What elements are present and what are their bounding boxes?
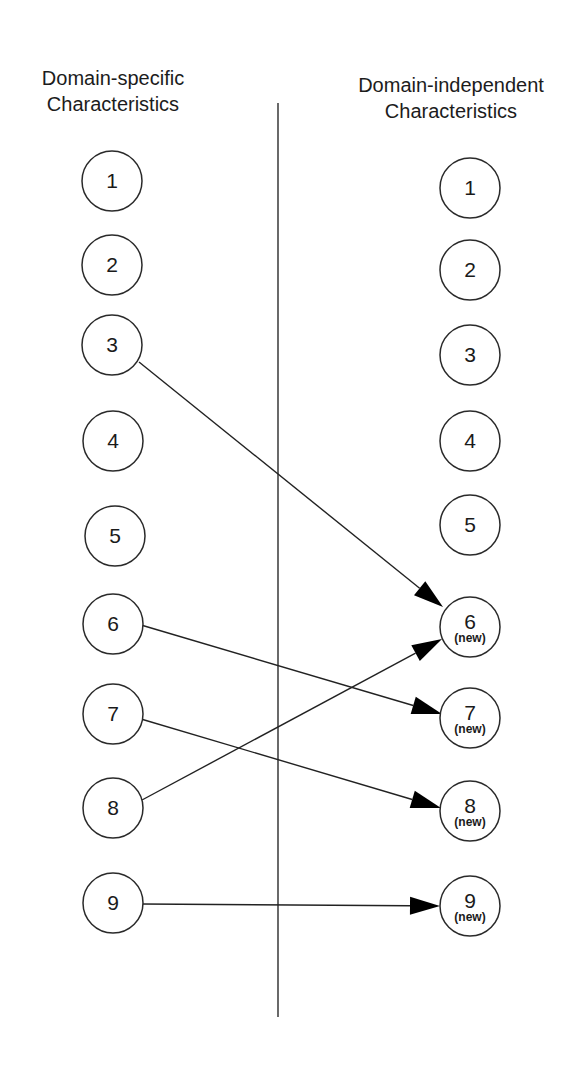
arrow-L8-to-R6 bbox=[142, 639, 442, 800]
new-tag: (new) bbox=[454, 722, 485, 736]
new-tag: (new) bbox=[454, 910, 485, 924]
left-node-6: 6 bbox=[83, 594, 143, 654]
arrowhead-icon bbox=[414, 581, 443, 607]
arrow-L3-to-R6 bbox=[139, 362, 443, 607]
arrowhead-icon bbox=[411, 697, 442, 714]
left-node-5: 5 bbox=[85, 506, 145, 566]
left-node-8: 8 bbox=[83, 778, 143, 838]
mapping-diagram: 123456789 123456(new)7(new)8(new)9(new) bbox=[0, 0, 577, 1070]
left-node-7: 7 bbox=[83, 684, 143, 744]
left-node-1: 1 bbox=[82, 151, 142, 211]
arrow-line bbox=[139, 362, 420, 588]
right-node-7: 7(new) bbox=[440, 688, 500, 748]
node-number: 6 bbox=[464, 610, 476, 633]
arrow-line bbox=[142, 904, 410, 906]
right-node-3: 3 bbox=[440, 325, 500, 385]
node-number: 9 bbox=[107, 891, 119, 914]
node-number: 9 bbox=[464, 889, 476, 912]
right-node-1: 1 bbox=[440, 158, 500, 218]
node-number: 4 bbox=[464, 429, 476, 452]
arrow-L9-to-R9 bbox=[142, 897, 440, 915]
node-number: 2 bbox=[464, 258, 476, 281]
node-number: 5 bbox=[109, 524, 121, 547]
node-number: 7 bbox=[107, 702, 119, 725]
node-number: 5 bbox=[464, 513, 476, 536]
right-node-9: 9(new) bbox=[440, 876, 500, 936]
left-node-3: 3 bbox=[82, 315, 142, 375]
node-number: 2 bbox=[106, 253, 118, 276]
arrowhead-icon bbox=[410, 897, 440, 915]
left-node-9: 9 bbox=[83, 873, 143, 933]
node-number: 3 bbox=[464, 343, 476, 366]
domain-specific-nodes: 123456789 bbox=[82, 151, 145, 933]
right-node-6: 6(new) bbox=[440, 597, 500, 657]
left-node-4: 4 bbox=[83, 411, 143, 471]
left-node-2: 2 bbox=[82, 235, 142, 295]
new-tag: (new) bbox=[454, 631, 485, 645]
right-node-8: 8(new) bbox=[440, 781, 500, 841]
arrow-line bbox=[141, 625, 413, 705]
node-number: 8 bbox=[107, 796, 119, 819]
arrow-line bbox=[142, 653, 416, 800]
arrow-L7-to-R8 bbox=[141, 719, 441, 808]
arrowhead-icon bbox=[410, 791, 441, 808]
arrow-L6-to-R7 bbox=[141, 625, 442, 714]
node-number: 3 bbox=[106, 333, 118, 356]
node-number: 7 bbox=[464, 701, 476, 724]
node-number: 1 bbox=[464, 176, 476, 199]
right-node-4: 4 bbox=[440, 411, 500, 471]
right-node-5: 5 bbox=[440, 495, 500, 555]
arrow-line bbox=[141, 719, 412, 799]
node-number: 1 bbox=[106, 169, 118, 192]
arrowhead-icon bbox=[411, 639, 442, 661]
node-number: 4 bbox=[107, 429, 119, 452]
right-node-2: 2 bbox=[440, 240, 500, 300]
mapping-arrows bbox=[139, 362, 443, 915]
node-number: 8 bbox=[464, 794, 476, 817]
new-tag: (new) bbox=[454, 815, 485, 829]
domain-independent-nodes: 123456(new)7(new)8(new)9(new) bbox=[440, 158, 500, 936]
node-number: 6 bbox=[107, 612, 119, 635]
